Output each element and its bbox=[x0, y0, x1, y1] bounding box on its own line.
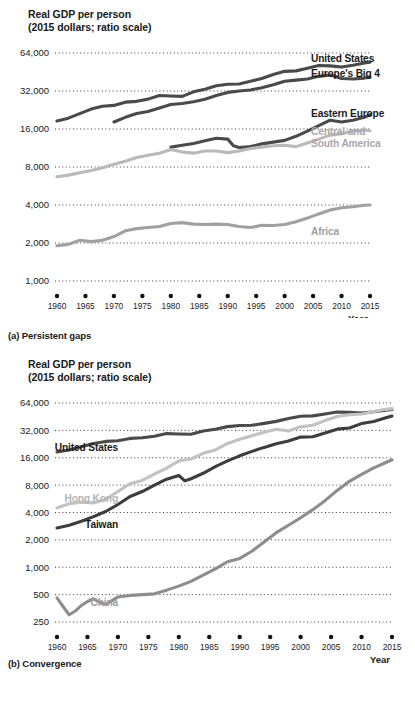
x-tick-label: 2010 bbox=[352, 642, 371, 652]
x-tick-dot bbox=[329, 635, 333, 639]
x-tick-label: 2015 bbox=[361, 301, 380, 311]
series-label: China bbox=[90, 597, 118, 608]
x-tick-label: 2000 bbox=[275, 301, 294, 311]
chart-b-caption: (b) Convergence bbox=[8, 658, 81, 669]
x-tick-dot bbox=[254, 294, 258, 298]
x-tick-label: 1990 bbox=[218, 301, 237, 311]
x-tick-dot bbox=[177, 635, 181, 639]
series-label: Central and bbox=[311, 126, 365, 137]
x-tick-dot bbox=[311, 294, 315, 298]
chart-a-plot: 1,0002,0004,0008,00016,00032,00064,00019… bbox=[0, 0, 415, 318]
series-label: Taiwan bbox=[85, 519, 118, 530]
x-tick-label: 1995 bbox=[247, 301, 266, 311]
x-tick-dot bbox=[268, 635, 272, 639]
x-tick-label: 1965 bbox=[76, 301, 95, 311]
x-tick-label: 1975 bbox=[139, 642, 158, 652]
chart-a-caption: (a) Persistent gaps bbox=[8, 330, 91, 341]
y-tick-label: 16,000 bbox=[20, 452, 49, 463]
x-tick-dot bbox=[298, 635, 302, 639]
x-tick-label: 2005 bbox=[322, 642, 341, 652]
x-tick-dot bbox=[55, 294, 59, 298]
chart-panel-a: Real GDP per person (2015 dollars; ratio… bbox=[0, 0, 415, 350]
y-tick-label: 500 bbox=[33, 589, 49, 600]
series-label: Africa bbox=[311, 226, 339, 237]
x-tick-label: 2000 bbox=[291, 642, 310, 652]
y-tick-label: 2,000 bbox=[25, 237, 49, 248]
series-label: United States bbox=[311, 53, 375, 64]
x-tick-label: 1980 bbox=[161, 301, 180, 311]
x-tick-dot bbox=[55, 635, 59, 639]
x-tick-label: 1990 bbox=[230, 642, 249, 652]
x-axis-label: Year bbox=[370, 654, 390, 665]
x-tick-label: 1970 bbox=[105, 301, 124, 311]
x-tick-label: 1970 bbox=[109, 642, 128, 652]
y-tick-label: 8,000 bbox=[25, 161, 49, 172]
x-tick-label: 2015 bbox=[383, 642, 402, 652]
x-tick-dot bbox=[368, 294, 372, 298]
x-tick-dot bbox=[207, 635, 211, 639]
y-tick-label: 64,000 bbox=[20, 397, 49, 408]
y-tick-label: 8,000 bbox=[25, 480, 49, 491]
x-tick-dot bbox=[339, 294, 343, 298]
y-tick-label: 2,000 bbox=[25, 534, 49, 545]
x-tick-dot bbox=[116, 635, 120, 639]
y-tick-label: 4,000 bbox=[25, 507, 49, 518]
x-tick-label: 2005 bbox=[304, 301, 323, 311]
x-tick-dot bbox=[146, 635, 150, 639]
series-label: South America bbox=[311, 138, 381, 149]
x-tick-dot bbox=[226, 294, 230, 298]
x-axis-label: Year bbox=[348, 313, 368, 318]
x-tick-dot bbox=[85, 635, 89, 639]
y-tick-label: 64,000 bbox=[20, 47, 49, 58]
x-tick-dot bbox=[238, 635, 242, 639]
x-tick-dot bbox=[140, 294, 144, 298]
x-tick-dot bbox=[282, 294, 286, 298]
x-tick-label: 2010 bbox=[332, 301, 351, 311]
series-line bbox=[57, 460, 392, 615]
chart-b-plot: 2505001,0002,0004,0008,00016,00032,00064… bbox=[0, 350, 415, 680]
series-label: Europe's Big 4 bbox=[311, 68, 380, 79]
chart-panel-b: Real GDP per person (2015 dollars; ratio… bbox=[0, 350, 415, 701]
x-tick-label: 1985 bbox=[190, 301, 209, 311]
x-tick-label: 1960 bbox=[48, 642, 67, 652]
series-line bbox=[57, 416, 392, 528]
x-tick-dot bbox=[112, 294, 116, 298]
series-label: Eastern Europe bbox=[311, 108, 385, 119]
x-tick-label: 1980 bbox=[169, 642, 188, 652]
series-label: Hong Kong bbox=[64, 493, 118, 504]
series-label: United States bbox=[55, 442, 119, 453]
x-tick-label: 1965 bbox=[78, 642, 97, 652]
x-tick-dot bbox=[390, 635, 394, 639]
y-tick-label: 4,000 bbox=[25, 199, 49, 210]
y-tick-label: 1,000 bbox=[25, 562, 49, 573]
x-tick-dot bbox=[359, 635, 363, 639]
y-tick-label: 32,000 bbox=[20, 85, 49, 96]
x-tick-label: 1960 bbox=[48, 301, 67, 311]
y-tick-label: 32,000 bbox=[20, 425, 49, 436]
x-tick-label: 1975 bbox=[133, 301, 152, 311]
y-tick-label: 1,000 bbox=[25, 275, 49, 286]
y-tick-label: 16,000 bbox=[20, 123, 49, 134]
x-tick-dot bbox=[83, 294, 87, 298]
x-tick-dot bbox=[169, 294, 173, 298]
y-tick-label: 250 bbox=[33, 616, 49, 627]
x-tick-dot bbox=[197, 294, 201, 298]
x-tick-label: 1995 bbox=[261, 642, 280, 652]
x-tick-label: 1985 bbox=[200, 642, 219, 652]
